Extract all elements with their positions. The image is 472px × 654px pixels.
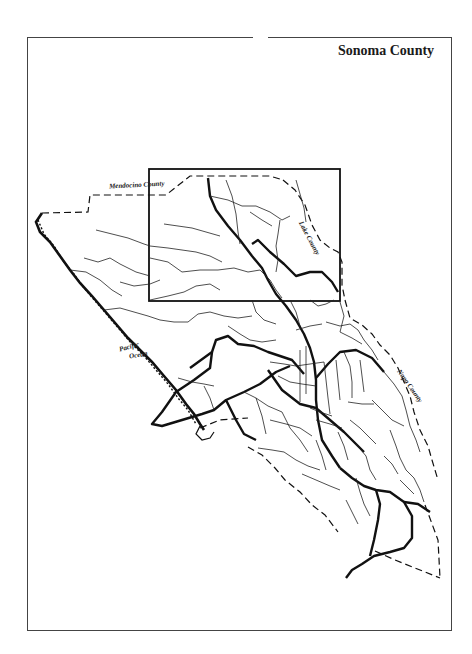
- county-map: [0, 0, 472, 654]
- frame-gap: [253, 35, 268, 39]
- county-boundary-dashed: [42, 176, 440, 578]
- coastline: [36, 213, 214, 440]
- major-highways: [152, 178, 430, 578]
- map-page: Sonoma County: [0, 0, 472, 654]
